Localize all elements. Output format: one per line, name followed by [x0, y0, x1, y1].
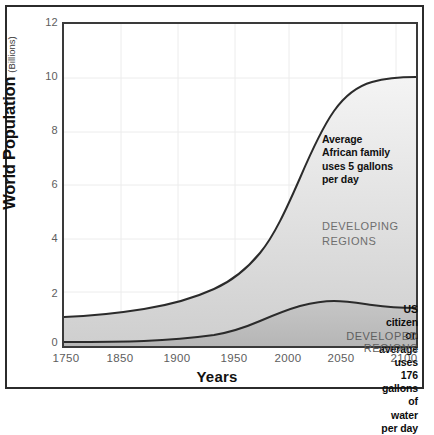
x-tick-2000: 2000	[274, 352, 301, 364]
y-axis-title: World Population (Billions)	[0, 38, 34, 208]
y-tick-2: 2	[34, 288, 58, 299]
x-axis-title: Years	[0, 368, 434, 385]
y-axis-title-units: (Billions)	[6, 36, 17, 72]
x-tick-1750: 1750	[52, 352, 79, 364]
y-axis-ticks: 12 10 8 6 4 2 0	[32, 0, 58, 403]
annotation-developed-regions: DEVELOPED REGIONS	[346, 330, 418, 354]
y-tick-8: 8	[34, 125, 58, 136]
y-tick-6: 6	[34, 179, 58, 190]
y-tick-12: 12	[34, 17, 58, 28]
area-developing-regions	[64, 77, 416, 342]
y-tick-10: 10	[34, 71, 58, 82]
annotation-developing-regions: DEVELOPING REGIONS	[322, 219, 399, 249]
y-tick-4: 4	[34, 233, 58, 244]
y-tick-0: 0	[34, 337, 58, 348]
x-tick-1950: 1950	[220, 352, 247, 364]
annotation-african-family: Average African family uses 5 gallons pe…	[322, 133, 393, 187]
x-tick-1900: 1900	[163, 352, 190, 364]
y-axis-title-main: World Population	[0, 77, 19, 210]
x-tick-1850: 1850	[106, 352, 133, 364]
annotation-us-citizen: US citizen on average uses 176 gallons o…	[379, 303, 418, 435]
